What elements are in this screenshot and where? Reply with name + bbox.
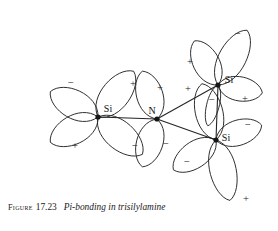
lobe-si-left-lower-left-sign: + bbox=[72, 140, 78, 151]
lobe-si-top-right-left bbox=[191, 41, 223, 85]
lobe-n-upper-left-sign: + bbox=[157, 82, 163, 93]
lobe-si-bot-right-upper-sign: + bbox=[185, 83, 191, 94]
atom-label-si-top-right: Si bbox=[225, 74, 234, 85]
caption-number: 17.23 bbox=[36, 202, 57, 212]
lobe-si-left-lower-right-sign: − bbox=[132, 140, 138, 151]
lobe-si-left-upper-right-sign: + bbox=[130, 78, 136, 89]
orbital-lobes-group bbox=[50, 30, 262, 200]
figure-caption: Figure17.23Pi-bonding in trisilylamine bbox=[8, 196, 270, 214]
lobe-si-left-upper-left-sign: − bbox=[68, 77, 74, 88]
atom-dot-si-bottom-right bbox=[213, 137, 218, 142]
atom-label-n-center: N bbox=[148, 105, 155, 116]
figure-container: SiNSiSi −++−+−−++−+−−+ Figure17.23Pi-bon… bbox=[0, 0, 278, 231]
lobe-si-bot-right-right-sign: − bbox=[245, 119, 251, 130]
atom-dot-n-center bbox=[154, 116, 159, 121]
atom-label-si-bottom-right: Si bbox=[222, 132, 231, 143]
atom-label-si-left: Si bbox=[104, 103, 113, 114]
lobe-si-top-right-right-sign: + bbox=[242, 93, 248, 104]
atom-dot-si-top-right bbox=[215, 82, 220, 87]
caption-title: Pi-bonding in trisilylamine bbox=[64, 202, 166, 212]
lobe-n-lower-left bbox=[136, 119, 164, 167]
atom-dot-si-left bbox=[95, 114, 100, 119]
lobe-si-bot-right-down bbox=[209, 140, 238, 200]
lobe-si-top-right-down-sign: − bbox=[209, 94, 215, 105]
lobe-n-lower-left-sign: − bbox=[163, 138, 169, 149]
caption-label: Figure bbox=[8, 203, 33, 212]
lobe-si-top-right-left-sign: + bbox=[187, 56, 193, 67]
lobe-si-bot-right-lowleft-sign: − bbox=[184, 156, 190, 167]
lobe-si-top-right-upper-sign: − bbox=[235, 28, 241, 39]
